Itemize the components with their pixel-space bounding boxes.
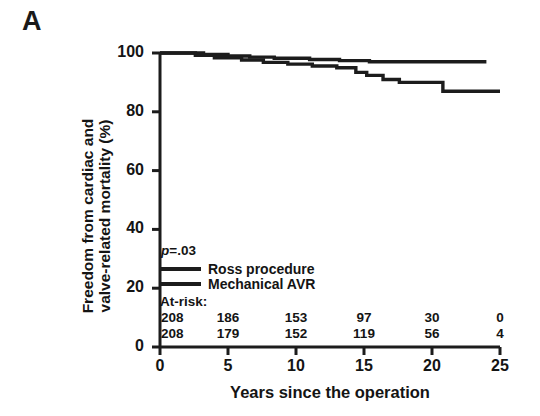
- x-tick-label-25: 25: [480, 357, 520, 375]
- y-tick-label-40: 40: [104, 219, 144, 237]
- x-axis-title: Years since the operation: [160, 383, 500, 402]
- x-tick-label-10: 10: [276, 357, 316, 375]
- legend: Ross procedure Mechanical AVR: [161, 261, 315, 291]
- y-tick-label-80: 80: [104, 102, 144, 120]
- at-risk-count: 4: [478, 326, 522, 341]
- plot-canvas: [0, 0, 540, 416]
- x-tick-label-15: 15: [344, 357, 384, 375]
- y-tick-label-100: 100: [104, 43, 144, 61]
- at-risk-count: 119: [342, 326, 386, 341]
- at-risk-row-mechanical: 208179152119564: [0, 326, 540, 342]
- legend-line-icon-mechanical: [161, 282, 201, 286]
- at-risk-title: At-risk:: [160, 294, 207, 309]
- legend-line-icon-ross: [161, 267, 201, 271]
- legend-item-ross: Ross procedure: [161, 261, 315, 276]
- figure-panel-a: A Freedom from cardiac and valve-related…: [0, 0, 540, 416]
- survival-curves: [160, 53, 500, 91]
- y-tick-label-20: 20: [104, 278, 144, 296]
- at-risk-count: 56: [410, 326, 454, 341]
- at-risk-count: 153: [274, 310, 318, 325]
- at-risk-count: 179: [206, 326, 250, 341]
- at-risk-count: 186: [206, 310, 250, 325]
- at-risk-count: 30: [410, 310, 454, 325]
- at-risk-count: 208: [161, 326, 205, 341]
- at-risk-count: 208: [161, 310, 205, 325]
- at-risk-row-ross: 20818615397300: [0, 310, 540, 326]
- legend-label-mechanical: Mechanical AVR: [208, 277, 315, 291]
- p-symbol: p: [161, 243, 169, 258]
- y-tick-label-60: 60: [104, 161, 144, 179]
- p-value-text: =.03: [169, 243, 196, 258]
- legend-item-mechanical: Mechanical AVR: [161, 276, 315, 291]
- p-value-annotation: p=.03: [161, 243, 196, 258]
- x-tick-label-0: 0: [140, 357, 180, 375]
- x-tick-label-20: 20: [412, 357, 452, 375]
- legend-label-ross: Ross procedure: [208, 262, 315, 276]
- at-risk-count: 152: [274, 326, 318, 341]
- at-risk-count: 0: [478, 310, 522, 325]
- x-tick-label-5: 5: [208, 357, 248, 375]
- at-risk-count: 97: [342, 310, 386, 325]
